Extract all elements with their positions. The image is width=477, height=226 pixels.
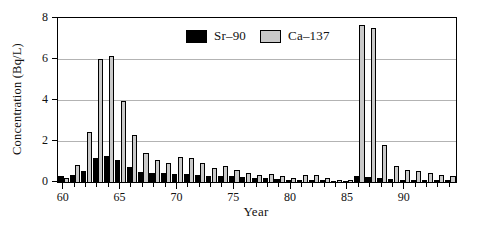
x-tick-mark-73 [210, 183, 211, 187]
bar-sr90-71 [184, 174, 189, 182]
bar-sr90-81 [297, 180, 302, 182]
x-tick-label-70: 70 [170, 191, 182, 203]
bar-sr90-67 [138, 172, 143, 182]
x-tick-label-90: 90 [398, 191, 410, 203]
bar-sr90-76 [240, 177, 245, 182]
bar-ca137-89 [394, 166, 399, 182]
bar-sr90-69 [161, 173, 166, 182]
bar-ca137-60 [64, 178, 69, 182]
legend-swatch-ca137 [260, 30, 281, 43]
bar-ca137-81 [303, 175, 308, 182]
bar-sr90-77 [252, 178, 257, 182]
bar-sr90-91 [411, 180, 416, 182]
bar-sr90-87 [365, 177, 370, 182]
bar-ca137-93 [439, 175, 444, 182]
bar-ca137-88 [382, 145, 387, 182]
x-tick-mark-84 [335, 183, 336, 187]
bar-sr90-63 [93, 158, 98, 182]
bar-ca137-77 [257, 175, 262, 182]
bar-sr90-78 [263, 178, 268, 182]
x-tick-label-75: 75 [227, 191, 239, 203]
bar-sr90-70 [172, 174, 177, 182]
bar-sr90-94 [445, 180, 450, 182]
y-tick-label-2: 2 [18, 134, 48, 146]
bar-ca137-69 [166, 163, 171, 182]
bar-ca137-92 [428, 173, 433, 182]
bar-ca137-61 [75, 165, 80, 182]
bar-sr90-61 [70, 175, 75, 182]
y-tick-label-0: 0 [18, 175, 48, 187]
bar-ca137-74 [223, 166, 228, 182]
bar-ca137-65 [121, 101, 126, 182]
bar-ca137-66 [132, 135, 137, 182]
bar-sr90-66 [127, 167, 132, 182]
plot-area: Sr–90 Ca–137 [57, 17, 457, 183]
x-tick-mark-88 [381, 183, 382, 187]
bar-chart-figure: Concentration (Bq/L) 02468 Sr–90 Ca–137 … [0, 0, 477, 226]
bar-sr90-73 [206, 176, 211, 182]
x-tick-mark-90 [403, 183, 404, 189]
x-tick-mark-62 [85, 183, 86, 187]
bar-sr90-84 [331, 181, 336, 182]
bar-sr90-83 [320, 180, 325, 182]
bar-ca137-83 [325, 178, 330, 183]
bar-ca137-85 [348, 180, 353, 182]
legend-label-sr90: Sr–90 [214, 28, 246, 44]
bar-ca137-76 [246, 173, 251, 182]
bar-sr90-64 [104, 156, 109, 182]
x-tick-mark-76 [244, 183, 245, 187]
bar-ca137-71 [189, 158, 194, 182]
bar-ca137-82 [314, 175, 319, 182]
bar-sr90-65 [115, 160, 120, 182]
x-tick-mark-71 [187, 183, 188, 187]
x-tick-mark-60 [62, 183, 63, 189]
bar-sr90-80 [286, 180, 291, 182]
x-tick-label-65: 65 [114, 191, 126, 203]
x-tick-mark-82 [312, 183, 313, 187]
x-tick-mark-93 [437, 183, 438, 187]
legend-item-sr90: Sr–90 [186, 28, 246, 44]
bar-ca137-94 [450, 176, 455, 182]
x-tick-mark-70 [176, 183, 177, 189]
x-tick-mark-79 [278, 183, 279, 187]
bar-ca137-78 [269, 174, 274, 182]
bar-sr90-62 [81, 171, 86, 182]
gridline-2 [58, 141, 456, 142]
x-tick-mark-61 [74, 183, 75, 187]
x-tick-mark-67 [142, 183, 143, 187]
bar-sr90-79 [274, 179, 279, 182]
x-tick-mark-80 [290, 183, 291, 189]
x-tick-mark-92 [426, 183, 427, 187]
bar-ca137-80 [291, 178, 296, 183]
bar-ca137-79 [280, 176, 285, 182]
bar-sr90-74 [218, 176, 223, 182]
bar-sr90-72 [195, 175, 200, 182]
legend-label-ca137: Ca–137 [288, 28, 330, 44]
y-tick-label-6: 6 [18, 52, 48, 64]
bar-sr90-93 [434, 180, 439, 182]
legend: Sr–90 Ca–137 [186, 28, 330, 44]
gridline-6 [58, 59, 456, 60]
x-tick-mark-86 [358, 183, 359, 187]
bar-ca137-87 [371, 28, 376, 182]
legend-swatch-sr90 [186, 30, 207, 43]
x-tick-label-85: 85 [341, 191, 353, 203]
bar-sr90-68 [149, 173, 154, 182]
x-axis-label: Year [243, 204, 268, 220]
legend-item-ca137: Ca–137 [260, 28, 330, 44]
x-tick-mark-68 [153, 183, 154, 187]
x-tick-mark-94 [449, 183, 450, 187]
bar-ca137-73 [212, 168, 217, 182]
bar-ca137-90 [405, 170, 410, 182]
bar-ca137-67 [143, 153, 148, 182]
bar-sr90-88 [377, 178, 382, 182]
gridline-4 [58, 100, 456, 101]
x-tick-mark-83 [324, 183, 325, 187]
x-tick-mark-91 [415, 183, 416, 187]
bar-ca137-84 [337, 180, 342, 182]
x-tick-mark-65 [119, 183, 120, 189]
x-tick-mark-75 [233, 183, 234, 189]
x-tick-mark-64 [108, 183, 109, 187]
bar-ca137-70 [178, 157, 183, 182]
bar-ca137-68 [155, 160, 160, 182]
